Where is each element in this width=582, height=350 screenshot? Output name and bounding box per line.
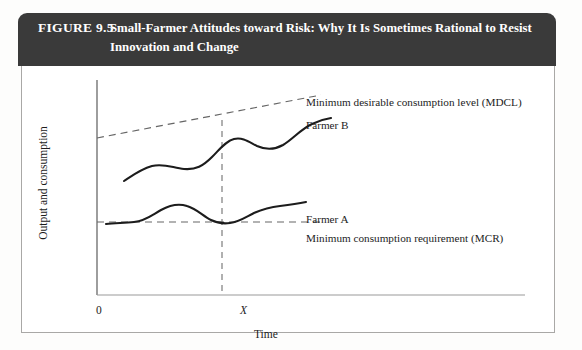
y-axis-label: Output and consumption <box>37 113 49 253</box>
farmer-b-curve <box>124 118 331 181</box>
mdcl-line <box>97 95 321 138</box>
annotation-mcr: Minimum consumption requirement (MCR) <box>306 232 503 244</box>
farmer-a-curve <box>106 202 306 224</box>
annotation-farmer-b: Farmer B <box>306 119 349 131</box>
plot-canvas <box>21 29 555 333</box>
annotation-mdcl: Minimum desirable consumption level (MDC… <box>306 96 522 108</box>
x-axis-tick-x: X <box>240 304 247 316</box>
x-axis-tick-zero: 0 <box>96 304 102 316</box>
annotation-farmer-a: Farmer A <box>306 213 349 225</box>
x-axis-label: Time <box>254 328 278 340</box>
figure-root: FIGURE 9.5 Small-Farmer Attitudes toward… <box>0 0 582 350</box>
plot-area: Minimum desirable consumption level (MDC… <box>21 29 555 333</box>
